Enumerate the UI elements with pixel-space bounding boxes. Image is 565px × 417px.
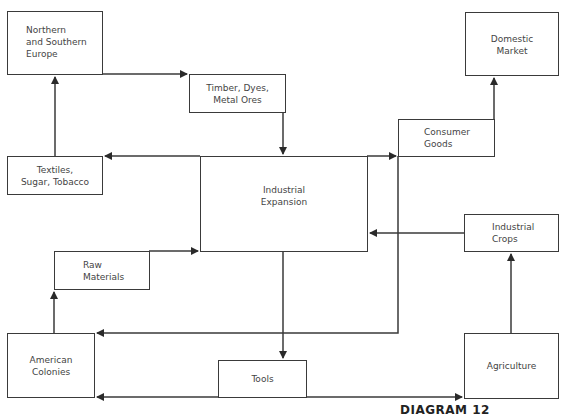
node-northern-southern-europe: Northern and Southern Europe	[7, 11, 103, 75]
node-textiles-sugar-tobacco: Textiles, Sugar, Tobacco	[7, 156, 103, 195]
node-industrial-crops: Industrial Crops	[464, 214, 559, 252]
node-industrial-expansion: Industrial Expansion	[200, 156, 368, 252]
node-tools: Tools	[218, 360, 307, 398]
node-label: Domestic Market	[491, 33, 533, 57]
node-label: Textiles, Sugar, Tobacco	[21, 164, 89, 188]
node-label: Agriculture	[487, 360, 537, 372]
node-label: Timber, Dyes, Metal Ores	[206, 82, 269, 106]
node-timber-dyes-metal-ores: Timber, Dyes, Metal Ores	[189, 74, 286, 113]
node-label: Industrial Crops	[492, 221, 534, 245]
node-label: Consumer Goods	[424, 126, 470, 150]
node-label: American Colonies	[30, 354, 73, 378]
node-raw-materials: Raw Materials	[54, 251, 150, 290]
node-american-colonies: American Colonies	[7, 333, 95, 398]
node-domestic-market: Domestic Market	[465, 12, 559, 76]
node-label: Raw Materials	[83, 259, 124, 283]
diagram-caption: DIAGRAM 12	[400, 403, 490, 417]
node-consumer-goods: Consumer Goods	[398, 119, 495, 157]
node-agriculture: Agriculture	[464, 333, 559, 399]
node-label: Industrial Expansion	[261, 184, 307, 208]
node-label: Northern and Southern Europe	[26, 24, 87, 60]
node-label: Tools	[251, 373, 273, 385]
